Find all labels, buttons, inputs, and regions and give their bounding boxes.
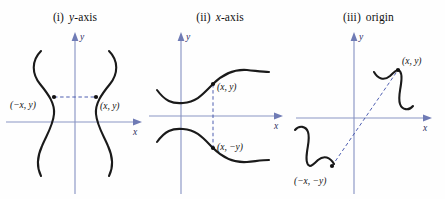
x-axis-arrowhead-1 — [133, 119, 142, 126]
curve-upper-right-original — [374, 70, 413, 109]
panel-title-rest-i: -axis — [74, 11, 97, 23]
point-label-neg-x-y: (−x, y) — [10, 100, 36, 111]
panel-title-y-axis: (i)y-axis — [0, 11, 150, 23]
panel-x-axis-symmetry: (ii)x-axis (x, y) (x, −y) y — [145, 0, 295, 199]
x-axis-arrowhead-2 — [274, 113, 283, 120]
point-dot-x-neg-y — [211, 146, 215, 150]
y-axis-arrowhead-3 — [351, 32, 358, 41]
panel-numeral-iii: (iii) — [343, 11, 361, 23]
plot-area-x-axis: (x, y) (x, −y) y x — [145, 26, 295, 199]
point-dot-neg-x-y — [52, 95, 56, 99]
panel-title-rest-ii: -axis — [221, 11, 244, 23]
panel-origin-symmetry: (iii)origin (x, y) (−x, −y) — [292, 0, 445, 199]
panel-title-x-axis: (ii)x-axis — [145, 11, 295, 23]
point-label-x-y: (x, y) — [100, 101, 120, 112]
panel-numeral-i: (i) — [53, 11, 64, 23]
point-label-x-neg-y: (x, −y) — [217, 142, 243, 153]
point-dot-x-y — [211, 82, 215, 86]
point-label-neg-x-neg-y: (−x, −y) — [294, 176, 326, 187]
point-dot-x-y — [396, 68, 400, 72]
symmetry-figure: (i)y-axis (−x, y) (x, y) y — [0, 0, 445, 199]
point-label-x-y: (x, y) — [402, 56, 422, 67]
curve-lower-left-rotated — [295, 127, 334, 166]
point-dot-x-y — [94, 95, 98, 99]
x-axis-label-3: x — [422, 123, 428, 133]
y-axis-label-1: y — [79, 32, 85, 42]
curve-right-original — [96, 51, 116, 176]
x-axis-label-2: x — [273, 121, 279, 131]
panel-title-origin: (iii)origin — [292, 11, 445, 23]
plot-area-y-axis: (−x, y) (x, y) y x — [0, 26, 150, 199]
plot-area-origin: (x, y) (−x, −y) y x — [292, 26, 445, 199]
y-axis-label-2: y — [185, 32, 191, 42]
x-axis-label-1: x — [132, 127, 138, 137]
x-axis-arrowhead-3 — [423, 115, 432, 122]
point-dot-neg-x-neg-y — [330, 164, 334, 168]
y-axis-label-3: y — [358, 32, 364, 42]
y-axis-arrowhead-1 — [72, 32, 79, 41]
panel-numeral-ii: (ii) — [196, 11, 210, 23]
curve-left-mirrored — [34, 51, 54, 176]
point-label-x-y: (x, y) — [217, 82, 237, 93]
panel-title-rest-iii: origin — [366, 11, 394, 23]
y-axis-arrowhead-2 — [178, 32, 185, 41]
panel-y-axis-symmetry: (i)y-axis (−x, y) (x, y) y — [0, 0, 150, 199]
